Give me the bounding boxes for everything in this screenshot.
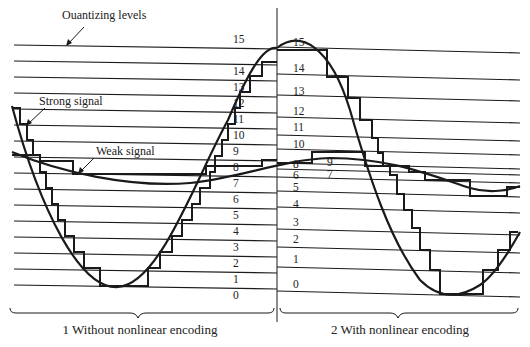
level-label: 8 bbox=[233, 161, 239, 173]
quantizing-level-line bbox=[277, 95, 520, 101]
level-label: 3 bbox=[293, 216, 299, 228]
level-label: 4 bbox=[293, 198, 299, 210]
quantizing-level-line bbox=[277, 229, 520, 235]
level-label: 5 bbox=[293, 181, 299, 193]
quantizing-level-line bbox=[277, 207, 520, 213]
level-label: 10 bbox=[293, 138, 305, 150]
level-label: 15 bbox=[233, 33, 245, 45]
weak-signal-label: Weak signal bbox=[96, 144, 155, 158]
strong-signal-label: Strong signal bbox=[39, 94, 103, 108]
level-label: 4 bbox=[233, 225, 239, 237]
level-label: 9 bbox=[233, 145, 239, 157]
quantizing-level-line bbox=[14, 45, 277, 49]
right-caption: 2 With nonlinear encoding bbox=[331, 322, 470, 337]
level-label: 11 bbox=[233, 113, 244, 125]
level-label: 13 bbox=[293, 85, 305, 97]
right-brace bbox=[280, 308, 518, 318]
quantization-diagram: 0123456789101112131415 01234567891011121… bbox=[0, 0, 530, 347]
quantizing-level-line bbox=[277, 169, 520, 175]
level-label: 11 bbox=[293, 121, 304, 133]
level-label: 3 bbox=[233, 241, 239, 253]
level-label: 12 bbox=[233, 97, 245, 109]
quantizing-level-line bbox=[277, 135, 520, 141]
right-quantizing-lines bbox=[277, 47, 520, 297]
level-label: 0 bbox=[233, 289, 239, 301]
quantizing-level-line bbox=[277, 74, 520, 80]
level-label: 13 bbox=[233, 81, 245, 93]
level-label: 14 bbox=[233, 65, 245, 77]
left-brace bbox=[10, 308, 274, 318]
level-label: 10 bbox=[233, 129, 245, 141]
level-label: 1 bbox=[233, 273, 239, 285]
level-label: 1 bbox=[293, 253, 299, 265]
level-label: 8 bbox=[293, 158, 299, 170]
level-label: 0 bbox=[293, 278, 299, 290]
quantizing-level-line bbox=[277, 247, 520, 253]
level-label: 15 bbox=[293, 36, 305, 48]
quantizing-level-line bbox=[277, 117, 520, 123]
quantizing-levels-label: Ouantizing levels bbox=[62, 8, 147, 22]
level-label: 7 bbox=[233, 177, 239, 189]
level-label: 2 bbox=[293, 233, 299, 245]
level-label: 6 bbox=[293, 169, 299, 181]
left-caption: 1 Without nonlinear encoding bbox=[63, 322, 218, 337]
level-label: 6 bbox=[233, 193, 239, 205]
level-label: 7 bbox=[327, 168, 333, 180]
level-label: 14 bbox=[293, 62, 305, 74]
quantizing-level-line bbox=[277, 177, 520, 183]
level-label: 12 bbox=[293, 105, 305, 117]
level-label: 9 bbox=[327, 156, 333, 168]
level-label: 5 bbox=[233, 209, 239, 221]
level-label: 2 bbox=[233, 257, 239, 269]
